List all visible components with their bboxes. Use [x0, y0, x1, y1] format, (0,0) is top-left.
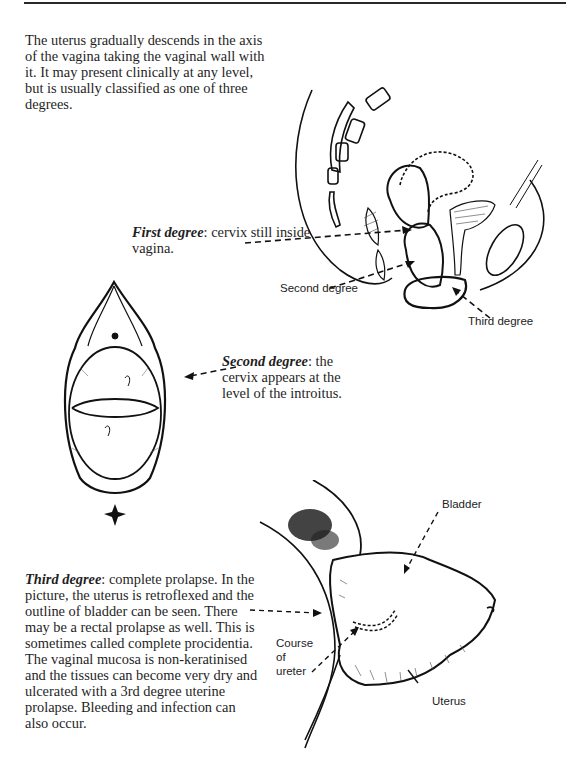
third-degree-description: : complete prolapse. In the picture, the…	[25, 571, 257, 731]
third-degree-term: Third degree	[25, 571, 101, 587]
third-degree-caption: Third degree: complete prolapse. In the …	[25, 571, 260, 731]
label-bladder: Bladder	[442, 497, 482, 511]
label-course-of-ureter: Course of ureter	[276, 636, 313, 678]
label-uterus: Uterus	[432, 694, 466, 708]
label-course-line2: of	[276, 650, 313, 664]
label-course-line3: ureter	[276, 664, 313, 678]
label-course-line1: Course	[276, 636, 313, 650]
